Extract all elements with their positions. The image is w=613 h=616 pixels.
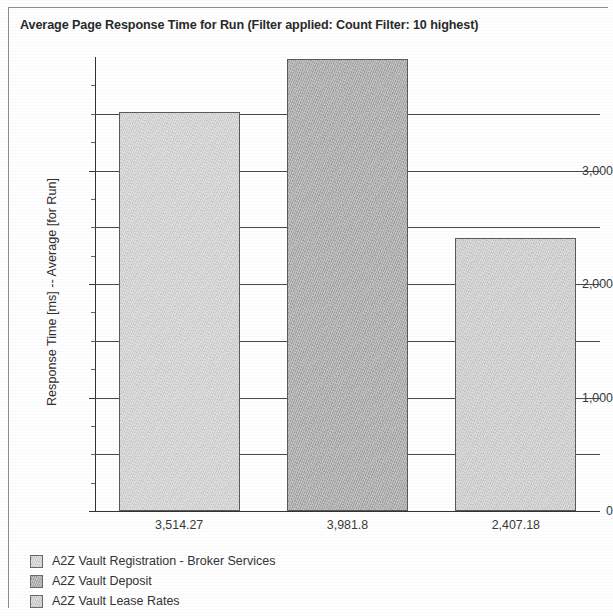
legend-item-label: A2Z Vault Deposit [52, 574, 152, 588]
legend-color-swatch [30, 595, 43, 608]
legend-item[interactable]: A2Z Vault Registration - Broker Services [30, 551, 275, 571]
legend-item[interactable]: A2Z Vault Lease Rates [30, 591, 275, 611]
swatch-texture [31, 576, 42, 587]
legend-color-swatch [30, 555, 43, 568]
legend-item-label: A2Z Vault Lease Rates [52, 594, 180, 608]
chart-legend: A2Z Vault Registration - Broker Services… [30, 551, 275, 611]
swatch-texture [31, 596, 42, 607]
chart-title: Average Page Response Time for Run (Filt… [20, 18, 478, 32]
swatch-texture [31, 556, 42, 567]
report-panel [8, 7, 608, 608]
legend-item[interactable]: A2Z Vault Deposit [30, 571, 275, 591]
legend-color-swatch [30, 575, 43, 588]
legend-item-label: A2Z Vault Registration - Broker Services [52, 554, 275, 568]
